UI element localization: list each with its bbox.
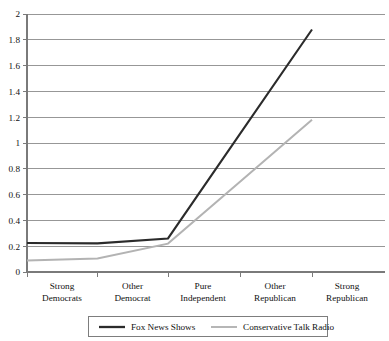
x-tick-label: StrongRepublican xyxy=(326,281,368,303)
y-tick-label: 1 xyxy=(15,138,20,148)
legend-label: Conservative Talk Radio xyxy=(243,322,334,332)
chart-figure: 00.20.40.60.811.21.41.61.82 StrongDemocr… xyxy=(0,0,389,341)
y-tick-label: 1.2 xyxy=(9,113,21,123)
x-tick-label: PureIndependent xyxy=(180,281,226,303)
y-tick-label: 1.4 xyxy=(9,87,21,97)
series-line xyxy=(27,29,312,243)
data-series-group xyxy=(27,29,312,260)
y-tick-label: 0 xyxy=(15,267,20,277)
y-tick-marks-group xyxy=(23,14,27,272)
x-tick-marks-group xyxy=(27,272,312,277)
y-tick-label: 1.8 xyxy=(9,35,21,45)
legend-entries-group: Fox News ShowsConservative Talk Radio xyxy=(99,322,334,332)
gridlines-group xyxy=(27,14,385,272)
y-tick-label: 0.6 xyxy=(9,190,21,200)
y-tick-label: 0.4 xyxy=(9,216,21,226)
legend-label: Fox News Shows xyxy=(131,322,196,332)
x-tick-label: StrongDemocrats xyxy=(42,281,82,303)
series-line xyxy=(27,120,312,261)
x-tick-label: OtherRepublican xyxy=(254,281,296,303)
x-tick-labels-group: StrongDemocratsOtherDemocratPureIndepend… xyxy=(42,281,368,303)
x-tick-label: OtherDemocrat xyxy=(114,281,151,303)
y-tick-label: 0.8 xyxy=(9,164,21,174)
y-tick-labels-group: 00.20.40.60.811.21.41.61.82 xyxy=(9,9,21,277)
y-tick-label: 0.2 xyxy=(9,242,21,252)
line-chart: 00.20.40.60.811.21.41.61.82 StrongDemocr… xyxy=(0,0,389,341)
y-tick-label: 1.6 xyxy=(9,61,21,71)
y-tick-label: 2 xyxy=(15,9,20,19)
